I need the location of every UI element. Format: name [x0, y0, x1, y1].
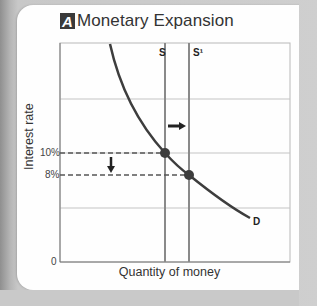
equilibrium-point-s1 [184, 170, 194, 180]
y-axis-label: Interest rate [22, 103, 36, 170]
label-s: S [159, 47, 166, 58]
x-axis-label: Quantity of money [0, 265, 299, 279]
label-s1: S¹ [193, 47, 203, 58]
tick-8: 8% [45, 169, 59, 180]
tick-10: 10% [40, 147, 60, 158]
demand-curve [110, 44, 250, 218]
right-arrow-icon [168, 122, 186, 130]
equilibrium-point-s [160, 148, 170, 158]
down-arrow-icon [107, 157, 115, 173]
label-d: D [253, 216, 260, 227]
